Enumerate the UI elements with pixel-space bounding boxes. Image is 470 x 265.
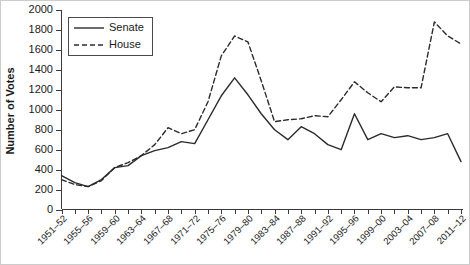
legend-label-house: House <box>109 38 141 50</box>
legend-label-senate: Senate <box>109 21 144 33</box>
y-tick-label: 1800 <box>29 23 53 35</box>
y-tick-label: 1400 <box>29 63 53 75</box>
y-tick-label: 1000 <box>29 103 53 115</box>
y-axis-tick-labels: 0200400600800100012001400160018002000 <box>29 3 53 215</box>
series-line-senate <box>62 78 462 187</box>
y-tick-label: 0 <box>47 203 53 215</box>
y-axis-ticks <box>56 11 62 211</box>
y-tick-label: 200 <box>35 183 53 195</box>
x-tick-label: 2011–12 <box>434 213 467 246</box>
y-axis-title: Number of Votes <box>4 67 16 154</box>
chart-figure: 0200400600800100012001400160018002000 19… <box>0 0 470 265</box>
chart-legend: Senate House <box>69 18 153 56</box>
y-tick-label: 1200 <box>29 83 53 95</box>
y-tick-label: 400 <box>35 163 53 175</box>
y-tick-label: 2000 <box>29 3 53 15</box>
x-axis-tick-labels: 1951–521955–561959–601963–641967–681971–… <box>35 213 468 247</box>
y-tick-label: 800 <box>35 123 53 135</box>
y-tick-label: 600 <box>35 143 53 155</box>
line-chart: 0200400600800100012001400160018002000 19… <box>1 1 470 265</box>
y-tick-label: 1600 <box>29 43 53 55</box>
x-axis-ticks <box>63 210 462 215</box>
